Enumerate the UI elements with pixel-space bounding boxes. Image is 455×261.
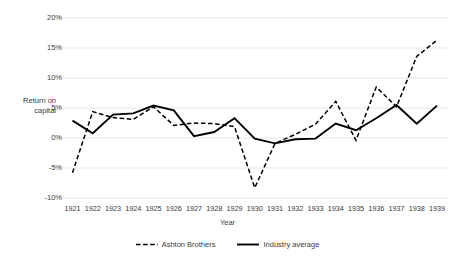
x-axis-tick-label: 1939 [422, 204, 452, 213]
legend-item-ashton-brothers[interactable]: Ashton Brothers [136, 240, 216, 249]
legend-label: Industry average [263, 240, 319, 249]
chart-container: Return on capital 20%15%10%5%0%-5%-10% 1… [0, 0, 455, 261]
gridlines [62, 18, 448, 198]
x-axis-tick-labels: 1921192219231924192519261927192819291930… [0, 204, 455, 216]
legend-label: Ashton Brothers [162, 240, 216, 249]
legend-item-industry-average[interactable]: Industry average [237, 240, 319, 249]
solid-line-icon [237, 241, 259, 248]
series-lines [73, 40, 438, 188]
x-axis-title: Year [0, 218, 455, 227]
chart-legend: Ashton Brothers Industry average [0, 240, 455, 249]
dashed-line-icon [136, 241, 158, 248]
